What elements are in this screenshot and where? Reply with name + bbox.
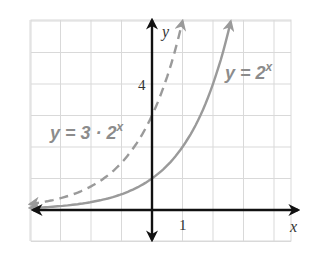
equation-label-2-pow-x: y = 2x [224, 60, 274, 83]
curve-3-times-2-pow-x [30, 21, 183, 204]
equation-exponent: x [265, 60, 274, 74]
x-tick-label-1: 1 [179, 217, 187, 233]
x-axis-label: x [289, 218, 297, 235]
equation-exponent: x [116, 120, 125, 134]
equation-base: y = 2 [224, 63, 266, 83]
exponential-graph: 4 1 y x y = 2x y = 3 · 2x [0, 0, 319, 258]
y-axis-label: y [160, 23, 170, 41]
y-tick-label-4: 4 [138, 77, 146, 93]
equation-base: y = 3 · 2 [49, 123, 117, 143]
equation-label-3-times-2-pow-x: y = 3 · 2x [49, 120, 125, 143]
